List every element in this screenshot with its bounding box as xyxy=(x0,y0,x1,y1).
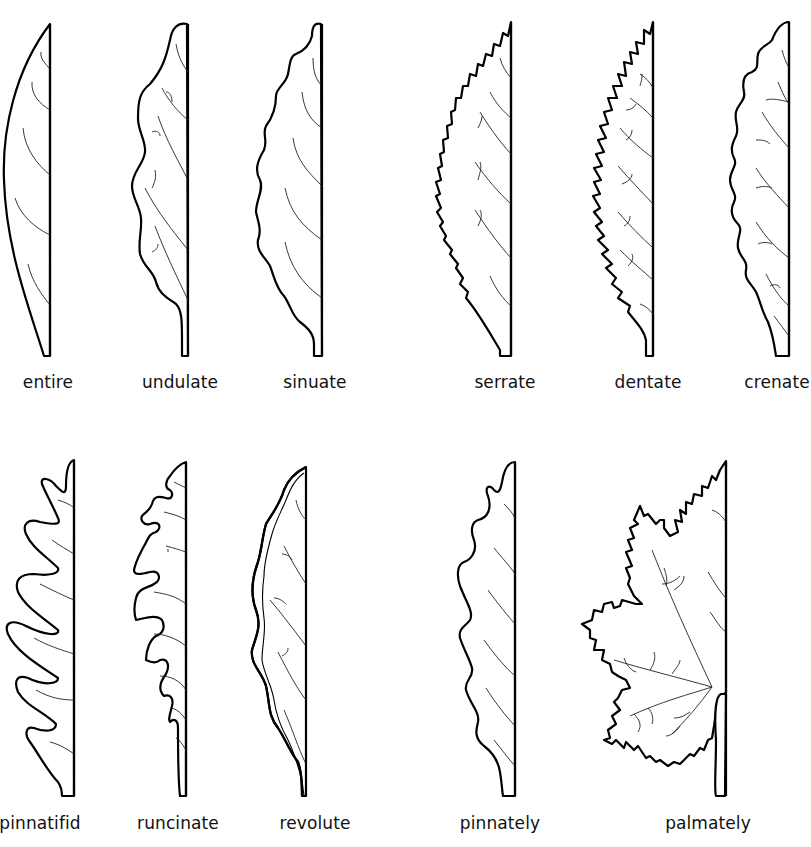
leaf-pinnately xyxy=(458,462,515,796)
label-entire: entire xyxy=(23,372,73,392)
label-sinuate: sinuate xyxy=(283,372,346,392)
label-crenate: crenate xyxy=(744,372,809,392)
label-runcinate: runcinate xyxy=(137,813,219,833)
leaf-sinuate xyxy=(256,24,322,356)
label-undulate: undulate xyxy=(142,372,218,392)
leaf-pinnatifid xyxy=(7,460,74,796)
leaf-runcinate xyxy=(134,462,186,796)
leaf-revolute xyxy=(252,467,306,796)
leaf-undulate xyxy=(132,24,188,356)
label-pinnatifid: pinnatifid xyxy=(0,813,81,833)
label-palmately: palmately xyxy=(665,813,751,833)
leaf-dentate xyxy=(593,22,653,356)
label-pinnately: pinnately xyxy=(460,813,540,833)
leaf-palmately xyxy=(582,461,726,796)
leaf-margins-diagram xyxy=(0,0,811,847)
leaf-entire xyxy=(4,24,50,356)
label-revolute: revolute xyxy=(280,813,351,833)
leaf-crenate xyxy=(730,22,789,356)
label-serrate: serrate xyxy=(474,372,535,392)
leaf-serrate xyxy=(436,22,511,356)
label-dentate: dentate xyxy=(615,372,682,392)
